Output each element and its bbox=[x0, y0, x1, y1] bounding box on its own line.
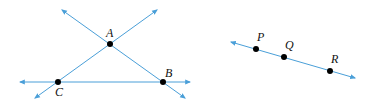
line-AB bbox=[62, 10, 185, 98]
points-group: ABCPQR bbox=[55, 26, 339, 99]
label-c: C bbox=[55, 85, 64, 99]
geometry-figure: ABCPQR bbox=[0, 0, 372, 110]
lines-group bbox=[20, 10, 355, 98]
point-p bbox=[253, 46, 259, 52]
label-a: A bbox=[105, 26, 114, 40]
point-q bbox=[281, 54, 287, 60]
line-CA bbox=[35, 10, 157, 98]
label-q: Q bbox=[285, 38, 294, 52]
label-p: P bbox=[256, 30, 265, 44]
point-r bbox=[327, 68, 333, 74]
point-a bbox=[107, 41, 113, 47]
label-b: B bbox=[165, 66, 173, 80]
label-r: R bbox=[330, 52, 339, 66]
